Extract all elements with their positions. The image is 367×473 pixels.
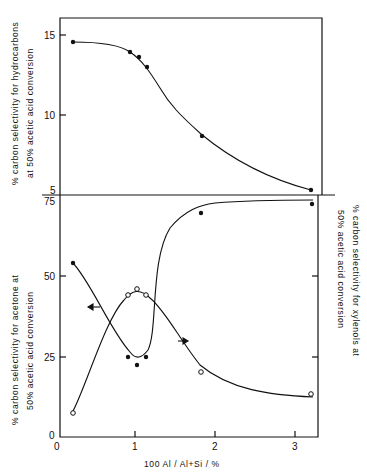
ytick-top-5: 5 — [50, 185, 56, 196]
bottom-y-label-1: % carbon selectivity for acetone at — [10, 275, 20, 425]
xtick-0: 0 — [54, 441, 60, 452]
xylenols-curve — [72, 291, 313, 413]
xtick-1: 1 — [132, 441, 138, 452]
xylenols-markers — [71, 287, 314, 416]
xtick-3: 3 — [292, 441, 298, 452]
right-arrow-icon — [183, 338, 188, 344]
xtick-2: 2 — [212, 441, 218, 452]
top-y-label-2: at 50% acetic acid conversion — [25, 48, 35, 178]
hydrocarbon-markers — [71, 40, 313, 192]
ytick-top-10: 10 — [44, 110, 56, 121]
x-axis-label: 100 Al / Al+Si / % — [144, 459, 220, 469]
left-arrow-icon — [88, 304, 93, 310]
ytick-top-15: 15 — [44, 30, 56, 41]
right-y-label-1: % carbon selectivity for xylenols at — [351, 205, 361, 357]
acetone-curve — [72, 200, 313, 357]
bottom-y-label-2: 50% acetic acid conversion — [25, 291, 35, 410]
curves — [72, 42, 313, 413]
right-y-label-2: 50% acetic acid conversion — [336, 210, 346, 329]
top-y-label-1: % carbon selectivity for hydrocarbons — [10, 22, 20, 185]
ytick-bot-75: 75 — [44, 196, 56, 207]
plot-frames — [42, 18, 335, 437]
ytick-bot-50: 50 — [44, 271, 56, 282]
ytick-bot-0: 0 — [49, 430, 55, 441]
chart-figure: 15 10 5 75 50 25 0 0 1 2 3 100 Al / Al+S… — [0, 0, 367, 473]
hydrocarbon-curve — [73, 42, 311, 190]
ytick-bot-25: 25 — [44, 352, 56, 363]
acetone-markers — [71, 202, 314, 367]
